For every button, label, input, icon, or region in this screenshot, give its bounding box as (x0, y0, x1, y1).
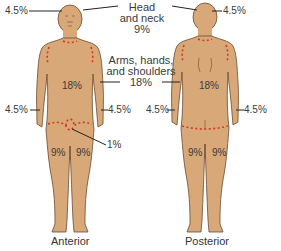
anterior-trunk-value: 18% (62, 81, 82, 91)
arms-value: 18% (102, 77, 180, 88)
rule-of-nines-diagram: Head and neck 9% Arms, hands, and should… (0, 0, 281, 251)
posterior-left-leg-value: 9% (188, 148, 202, 158)
posterior-head (193, 3, 217, 31)
anterior-figure (37, 5, 104, 232)
anterior-genital-value: 1% (107, 140, 121, 150)
anterior-right-arm-value: 4.5% (108, 105, 131, 115)
anterior-left-leg-value: 9% (51, 148, 65, 158)
head-neck-label: Head and neck 9% (112, 2, 172, 35)
posterior-figure (172, 3, 239, 232)
anterior-caption: Anterior (51, 235, 90, 247)
head-neck-value: 9% (112, 24, 172, 35)
posterior-body (172, 36, 239, 232)
arms-label: Arms, hands, and shoulders 18% (102, 55, 180, 88)
posterior-right-leg-value: 9% (212, 148, 226, 158)
posterior-right-arm-value: 4.5% (244, 105, 267, 115)
anterior-head (58, 5, 82, 33)
anterior-left-arm-value: 4.5% (5, 105, 28, 115)
posterior-caption: Posterior (185, 235, 229, 247)
anterior-right-leg-value: 9% (76, 148, 90, 158)
posterior-trunk-value: 18% (199, 81, 219, 91)
anterior-body (37, 38, 104, 232)
anterior-head-value: 4.5% (5, 6, 28, 16)
body-figures (0, 0, 281, 251)
posterior-head-value: 4.5% (223, 6, 246, 16)
posterior-left-arm-value: 4.5% (146, 105, 169, 115)
